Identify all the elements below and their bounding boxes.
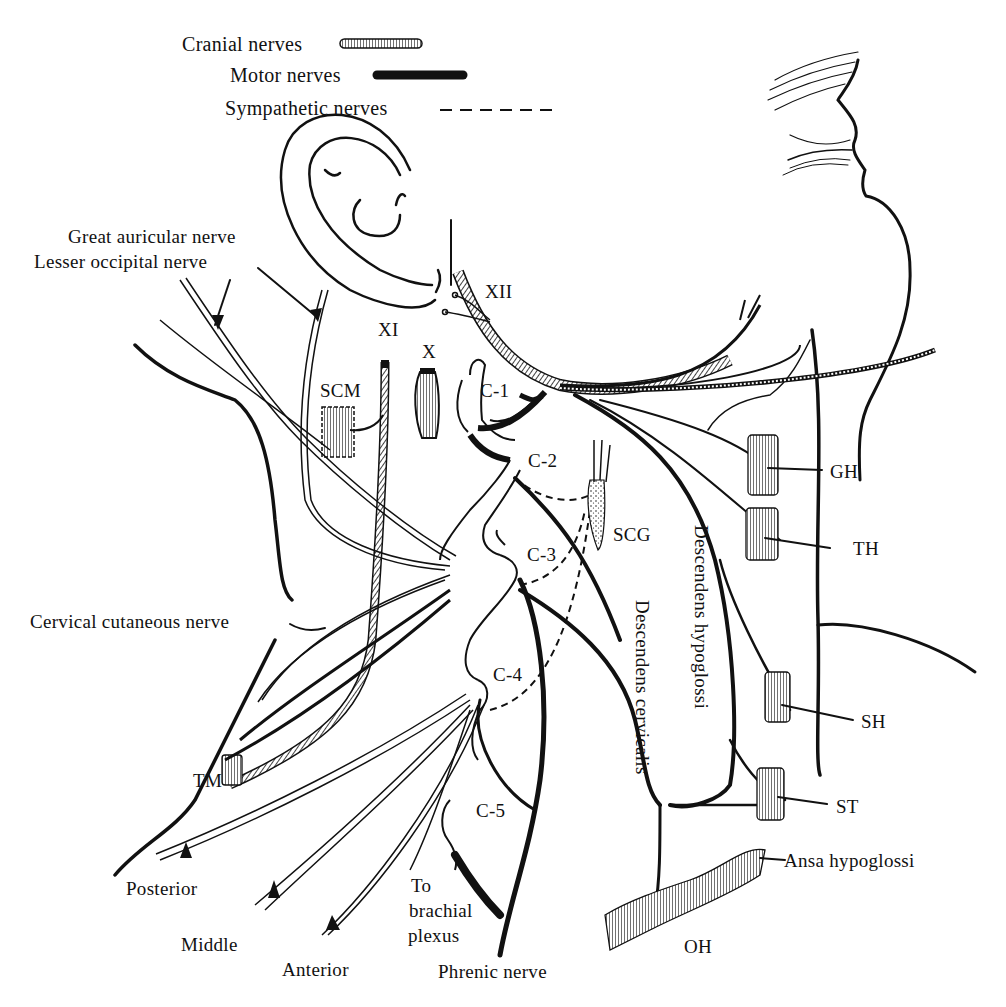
label-middle: Middle	[181, 935, 238, 954]
label-scg: SCG	[613, 525, 651, 544]
sternothyroid-muscle	[757, 768, 784, 820]
label-phrenic-nerve: Phrenic nerve	[438, 962, 547, 981]
hypoglossal-nerve-xii	[458, 272, 935, 390]
phrenic-nerve-path	[500, 580, 544, 955]
legend-sympathetic-nerves: Sympathetic nerves	[225, 98, 388, 118]
legend-cranial-nerves: Cranial nerves	[182, 34, 302, 54]
geniohyoid-muscle	[748, 435, 778, 495]
label-anterior: Anterior	[282, 960, 349, 979]
label-c4: C-4	[493, 665, 522, 684]
label-gh: GH	[830, 462, 858, 481]
superior-cervical-ganglion	[588, 440, 610, 550]
label-ansa-hypoglossi: Ansa hypoglossi	[784, 851, 915, 870]
label-cervical-cutaneous-nerve: Cervical cutaneous nerve	[30, 612, 229, 631]
label-xi: XI	[378, 320, 399, 339]
label-c3: C-3	[527, 545, 556, 564]
label-c2: C-2	[528, 451, 557, 470]
label-lesser-occipital-nerve: Lesser occipital nerve	[34, 252, 207, 271]
label-to-brachial-plexus-line2: brachial	[409, 901, 473, 920]
omohyoid-muscle	[605, 849, 765, 950]
label-descendens-cervicalis: Descendens cervicalis	[631, 600, 653, 775]
label-posterior: Posterior	[126, 879, 197, 898]
cranial-nerve-swatch	[340, 39, 422, 48]
sternocleidomastoid-muscle	[322, 407, 383, 457]
label-x: X	[422, 342, 436, 361]
label-to-brachial-plexus-line3: plexus	[408, 926, 459, 945]
label-c5: C-5	[476, 801, 505, 820]
label-sh: SH	[861, 712, 886, 731]
label-xii: XII	[485, 282, 512, 301]
label-tm: TM	[193, 771, 222, 790]
label-c1: C-1	[480, 381, 509, 400]
label-th: TH	[853, 539, 879, 558]
label-descendens-hypoglossi: Descendens hypoglossi	[690, 525, 712, 709]
label-to-brachial-plexus-line1: To	[411, 876, 431, 895]
vagus-nerve-x	[415, 368, 439, 438]
thyrohyoid-muscle	[746, 508, 778, 560]
neck-outline	[115, 345, 292, 875]
label-great-auricular-nerve: Great auricular nerve	[68, 227, 236, 246]
label-oh: OH	[684, 937, 712, 956]
label-scm: SCM	[320, 381, 361, 400]
face-profile	[708, 52, 975, 775]
legend-motor-nerves: Motor nerves	[230, 65, 341, 85]
cervical-plexus-loops	[440, 360, 545, 870]
ear	[281, 115, 451, 308]
sternohyoid-muscle	[765, 672, 790, 722]
label-st: ST	[836, 797, 859, 816]
